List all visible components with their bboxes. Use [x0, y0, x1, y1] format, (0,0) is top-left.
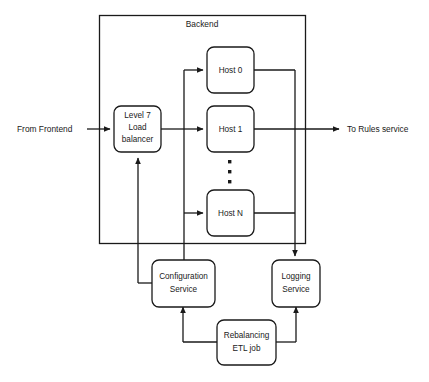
rebalancing-etl-job-label-line2: ETL job [233, 344, 261, 353]
diagram-canvas: Backend [0, 0, 429, 382]
node-load-balancer[interactable]: Level 7 Load balancer [114, 106, 161, 152]
node-host-n[interactable]: Host N [207, 190, 254, 236]
load-balancer-label-line3: balancer [122, 135, 154, 144]
host-1-label: Host 1 [219, 125, 243, 134]
node-configuration-service[interactable]: Configuration Service [152, 260, 215, 307]
vertical-ellipsis-icon [228, 160, 231, 183]
rebalancing-etl-job-box[interactable] [217, 320, 276, 365]
node-logging-service[interactable]: Logging Service [272, 260, 320, 307]
label-from-frontend: From Frontend [17, 124, 73, 134]
configuration-service-label-line2: Service [170, 285, 198, 294]
logging-service-label-line1: Logging [281, 272, 311, 281]
logging-service-box[interactable] [272, 260, 320, 307]
architecture-diagram: Backend [0, 0, 429, 382]
load-balancer-label-line1: Level 7 [124, 111, 151, 120]
backend-group-label: Backend [186, 19, 219, 29]
host-n-label: Host N [218, 209, 243, 218]
node-host-0[interactable]: Host 0 [207, 47, 254, 93]
configuration-service-label-line1: Configuration [159, 272, 208, 281]
node-rebalancing-etl-job[interactable]: Rebalancing ETL job [217, 320, 276, 365]
label-to-rules-service: To Rules service [347, 124, 409, 134]
node-host-1[interactable]: Host 1 [207, 106, 254, 152]
logging-service-label-line2: Service [282, 285, 310, 294]
rebalancing-etl-job-label-line1: Rebalancing [224, 331, 270, 340]
host-0-label: Host 0 [219, 66, 243, 75]
load-balancer-label-line2: Load [128, 123, 147, 132]
configuration-service-box[interactable] [152, 260, 215, 307]
